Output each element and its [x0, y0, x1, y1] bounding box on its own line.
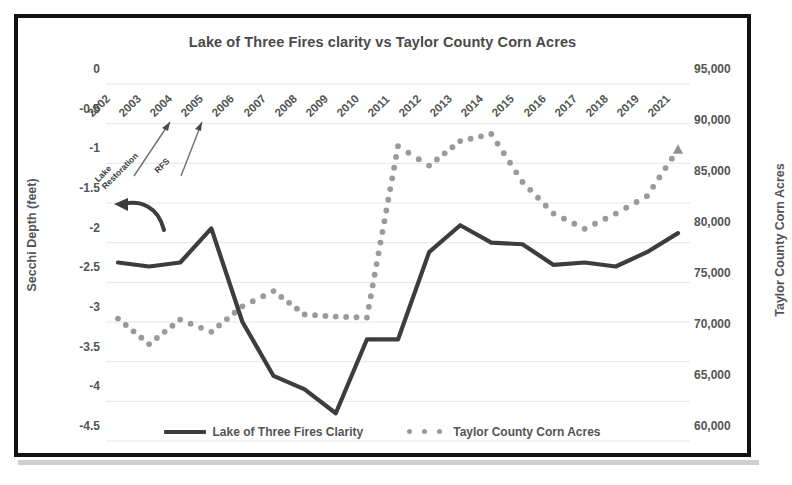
y-axis-left-tick-label: -4	[52, 379, 100, 393]
x-axis-tick-label: 2008	[272, 92, 299, 119]
y-axis-left-tick-label: -2	[52, 221, 100, 235]
y-axis-right-tick-label: 95,000	[694, 62, 756, 76]
annotation-arrow-rfs	[181, 122, 202, 176]
annotation-lake-restoration: Lake Restoration	[93, 144, 140, 191]
x-axis-tick-label: 2012	[397, 92, 424, 119]
y-axis-right-tick-label: 80,000	[694, 215, 756, 229]
frame-drop-shadow	[18, 460, 759, 465]
x-axis-tick-label: 2016	[521, 92, 548, 119]
y-axis-left-tick-label: -3	[52, 300, 100, 314]
legend-solid-line-swatch	[164, 430, 206, 434]
y-axis-right-tick-label: 70,000	[694, 317, 756, 331]
plot-area	[18, 18, 792, 485]
x-axis-tick-label: 2018	[583, 92, 610, 119]
y-axis-left-tick-label: -3.5	[52, 340, 100, 354]
y-axis-left-tick-label: -1	[52, 141, 100, 155]
y-axis-right-title: Taylor County Corn Acres	[773, 150, 787, 330]
annotation-curved-arrow-to-left-axis	[114, 198, 164, 230]
chart-title: Lake of Three Fires clarity vs Taylor Co…	[18, 34, 747, 50]
y-axis-right-tick-label: 85,000	[694, 164, 756, 178]
series-taylor-county-corn-acres	[115, 131, 683, 347]
x-axis-tick-label: 2005	[179, 92, 206, 119]
x-axis-tick-label: 2014	[459, 92, 486, 119]
y-axis-left-title: Secchi Depth (feet)	[25, 155, 39, 315]
legend-item-clarity[interactable]: Lake of Three Fires Clarity	[164, 425, 363, 439]
legend-item-corn-acres[interactable]: Taylor County Corn Acres	[405, 425, 600, 439]
x-axis-tick-label: 2010	[334, 92, 361, 119]
chart-frame: Lake of Three Fires clarity vs Taylor Co…	[14, 14, 751, 457]
x-axis-tick-label: 2019	[614, 92, 641, 119]
y-axis-right-tick-label: 65,000	[694, 368, 756, 382]
x-axis-tick-label: 2013	[428, 92, 455, 119]
x-axis-tick-label: 2017	[552, 92, 579, 119]
series-end-marker	[673, 144, 683, 154]
x-axis-tick-label: 2009	[303, 92, 330, 119]
x-axis-tick-label: 2003	[117, 92, 144, 119]
annotation-rfs: RFS	[153, 157, 172, 176]
x-axis-tick-label: 2004	[148, 92, 175, 119]
y-axis-left-tick-label: -1.5	[52, 181, 100, 195]
y-axis-right-tick-label: 90,000	[694, 113, 756, 127]
x-axis-tick-label: 2021	[646, 92, 673, 119]
x-axis-tick-label: 2015	[490, 92, 517, 119]
series-lake-of-three-fires-clarity	[118, 225, 678, 413]
legend-label-corn-acres: Taylor County Corn Acres	[453, 425, 600, 439]
x-axis-tick-label: 2007	[241, 92, 268, 119]
x-axis-tick-label: 2006	[210, 92, 237, 119]
y-axis-right-tick-label: 75,000	[694, 266, 756, 280]
x-axis-tick-label: 2011	[366, 93, 392, 119]
y-axis-left-tick-label: 0	[52, 62, 100, 76]
legend-label-clarity: Lake of Three Fires Clarity	[212, 425, 363, 439]
gridlines	[106, 84, 690, 441]
y-axis-left-tick-label: -2.5	[52, 260, 100, 274]
legend-dotted-line-swatch	[405, 429, 447, 435]
chart-legend: Lake of Three Fires Clarity Taylor Count…	[18, 425, 747, 439]
